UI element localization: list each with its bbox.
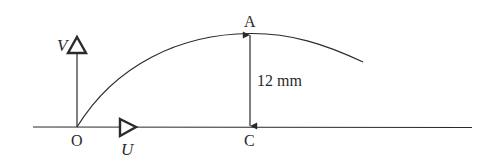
ground-line [33,127,472,128]
u-hollow-arrowhead-icon [120,119,136,136]
label-o: O [71,132,83,149]
trajectory-curve [77,33,363,127]
label-height: 12 mm [257,72,302,89]
label-c: C [244,132,255,149]
vertical-velocity-vector [68,37,86,127]
projectile-diagram: V O U A C 12 mm [0,0,478,163]
label-u: U [121,140,135,159]
label-a: A [244,13,256,30]
v-hollow-arrowhead-icon [68,37,86,53]
